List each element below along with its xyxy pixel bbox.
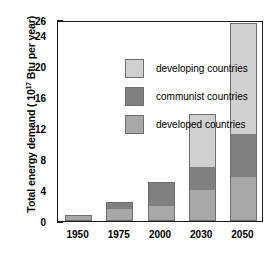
y-tick-label: 8: [16, 155, 46, 166]
bar-segment-2050-developed: [230, 177, 257, 221]
bar-segment-1950-developed: [65, 216, 92, 221]
x-tick-label-1950: 1950: [56, 229, 100, 240]
y-tick-label: 4: [16, 186, 46, 197]
legend-label: developed countries: [156, 119, 246, 130]
bar-segment-2050-communist: [230, 134, 257, 177]
y-tick-label: 26: [16, 16, 46, 27]
y-tick-label: 20: [16, 62, 46, 73]
legend-label: developing countries: [156, 63, 248, 74]
y-tick-label: 0: [16, 217, 46, 228]
bar-segment-2030-communist: [189, 167, 216, 190]
bar-segment-2000-developed: [148, 206, 175, 221]
legend-swatch-developing: [125, 59, 144, 78]
bar-segment-1950-communist: [65, 215, 92, 217]
legend-swatch-developed: [125, 115, 144, 134]
chart-figure: Total energy demand ( 1017 Btu per year)…: [0, 0, 272, 259]
chart-legend: developing countriescommunist countriesd…: [125, 55, 248, 139]
bar-segment-1975-developed: [106, 209, 133, 221]
legend-label: communist countries: [156, 91, 248, 102]
bar-1950: [65, 20, 92, 221]
legend-item-developing: developing countries: [125, 55, 248, 81]
x-tick-label-1975: 1975: [97, 229, 141, 240]
x-tick-label-2000: 2000: [138, 229, 182, 240]
y-tick-label: 24: [16, 31, 46, 42]
y-tick-label: 12: [16, 124, 46, 135]
legend-swatch-communist: [125, 87, 144, 106]
legend-item-communist: communist countries: [125, 83, 248, 109]
y-axis-title-exponent: 17: [25, 82, 32, 89]
bar-segment-2000-communist: [148, 182, 175, 205]
x-tick-label-2030: 2030: [179, 229, 223, 240]
plot-area: developing countriescommunist countriesd…: [57, 21, 263, 222]
y-tick-label: 16: [16, 93, 46, 104]
bar-segment-1975-communist: [106, 202, 133, 210]
bar-segment-2030-developed: [189, 190, 216, 221]
legend-item-developed: developed countries: [125, 111, 248, 137]
x-tick-label-2050: 2050: [220, 229, 264, 240]
